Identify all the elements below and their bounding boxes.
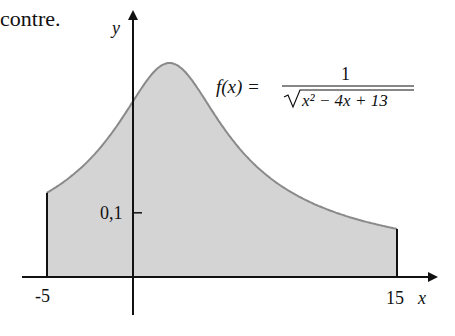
area-chart: 0,1 -5 15 x y f(x) = 1 x² − 4x + 13: [0, 0, 455, 336]
x-axis-label: x: [417, 288, 426, 308]
function-formula: f(x) = 1 x² − 4x + 13: [216, 64, 414, 110]
y-axis-label: y: [110, 18, 120, 38]
y-tick-label: 0,1: [100, 203, 123, 223]
x-tick-label-15: 15: [386, 288, 404, 308]
formula-denominator: x² − 4x + 13: [301, 91, 388, 110]
formula-numerator: 1: [341, 64, 350, 84]
x-tick-label-minus-5: -5: [35, 286, 50, 306]
formula-lhs: f(x) =: [216, 76, 260, 98]
